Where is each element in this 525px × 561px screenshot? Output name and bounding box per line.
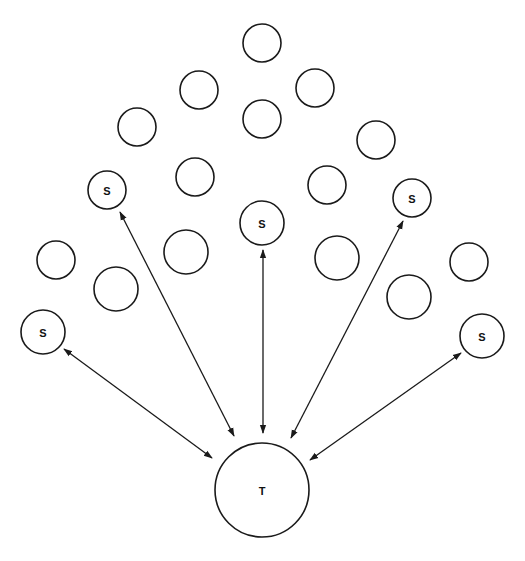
source-node: S [88,171,126,209]
unlabeled-node [180,71,218,109]
source-node: S [460,314,504,358]
bidirectional-arrow-s5-to-t [310,353,461,460]
unlabeled-node [164,230,208,274]
source-node-label: S [478,331,485,343]
unlabeled-node [243,100,281,138]
source-node: S [240,201,284,245]
unlabeled-node [387,275,431,319]
unlabeled-node [118,108,156,146]
source-node: S [393,179,431,217]
unlabeled-node [357,121,395,159]
unlabeled-node [308,166,346,204]
source-node-label: S [258,218,265,230]
unlabeled-node [176,158,214,196]
target-node: T [215,443,309,537]
source-node: S [21,310,65,354]
bidirectional-arrow-s1-to-t [64,349,212,458]
unlabeled-node [94,267,138,311]
unlabeled-node [243,24,281,62]
source-node-label: S [103,185,110,197]
target-node-layer: T [215,443,309,537]
network-diagram: SSSSS T [0,0,525,561]
unlabeled-node [315,236,359,280]
edges-layer [64,212,461,460]
target-node-label: T [259,485,266,497]
source-node-label: S [408,193,415,205]
unlabeled-node [37,241,75,279]
unlabeled-node [450,243,488,281]
unlabeled-node [296,69,334,107]
source-node-label: S [39,327,46,339]
